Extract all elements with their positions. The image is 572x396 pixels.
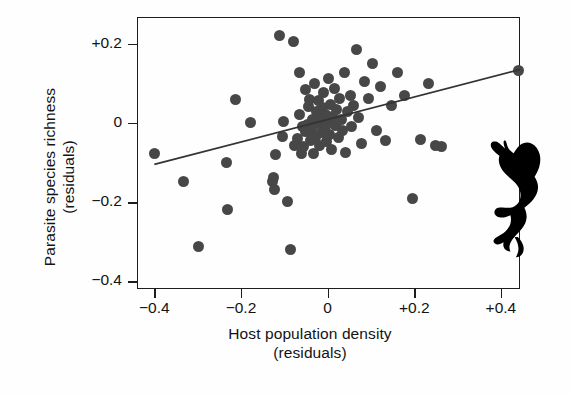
plot-area <box>137 17 520 289</box>
y-axis-tick-label: +0.2 <box>52 34 122 52</box>
y-axis-tick <box>128 281 137 283</box>
monkey-silhouette <box>487 131 553 263</box>
x-axis-tick-label: 0 <box>293 299 363 317</box>
monkey-silhouette-path <box>491 141 541 258</box>
x-axis-tick <box>328 289 330 298</box>
x-axis-tick <box>241 289 243 298</box>
y-axis-tick <box>128 202 137 204</box>
y-axis-tick <box>128 44 137 46</box>
regression-line-segment <box>154 70 520 165</box>
y-axis-tick <box>128 123 137 125</box>
x-axis-tick-label: +0.4 <box>466 299 536 317</box>
x-axis-tick <box>414 289 416 298</box>
x-axis-tick-label: −0.4 <box>119 299 189 317</box>
x-axis-tick <box>501 289 503 298</box>
y-axis-tick-label: −0.2 <box>52 192 122 210</box>
x-axis-title-line2: (residuals) <box>120 343 500 362</box>
x-axis-title: Host population density (residuals) <box>120 324 500 362</box>
y-axis-tick-label: −0.4 <box>52 271 122 289</box>
x-axis-title-line1: Host population density <box>120 324 500 343</box>
y-axis-tick-label: 0 <box>52 113 122 131</box>
regression-line <box>137 17 520 289</box>
x-axis-tick-label: −0.2 <box>206 299 276 317</box>
x-axis-tick <box>154 289 156 298</box>
scatter-plot-figure: Parasite species richness (residuals) +0… <box>0 0 572 396</box>
x-axis-tick-label: +0.2 <box>379 299 449 317</box>
